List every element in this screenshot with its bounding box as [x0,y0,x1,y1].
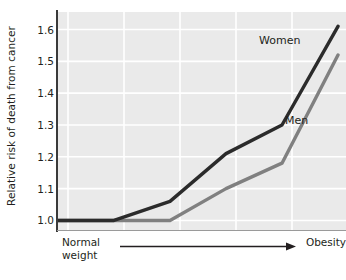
y-tick-label: 1.5 [37,55,54,67]
y-tick-label: 1.3 [37,119,54,131]
y-axis-title: Relative risk of death from cancer [0,0,22,232]
series-label-men: Men [285,114,308,127]
x-axis-label-normal-weight: Normal weight [62,236,100,262]
x-axis-spine [57,230,346,231]
x-axis-label-obesity: Obesity [306,236,346,249]
chart-figure: Relative risk of death from cancer 1.01.… [0,0,346,280]
y-tick-label: 1.6 [37,24,54,36]
y-tick-label: 1.1 [37,183,54,195]
series-line-men [58,55,338,220]
y-tick-label: 1.4 [37,87,54,99]
x-axis-label-normal-line1: Normal [62,236,100,249]
y-axis-title-text: Relative risk of death from cancer [5,26,17,206]
y-axis-tick-labels: 1.01.11.21.31.41.51.6 [22,0,56,240]
x-axis-label-normal-line2: weight [62,249,100,262]
y-tick-label: 1.2 [37,151,54,163]
x-axis-arrow-icon [120,242,296,251]
y-axis-spine [56,10,58,232]
x-axis-annotation: Normal weight Obesity [58,236,346,280]
series-label-women: Women [259,34,300,47]
y-tick-label: 1.0 [37,214,54,226]
